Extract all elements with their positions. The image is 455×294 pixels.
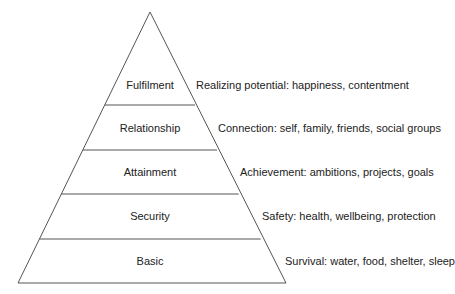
level-label-relationship: Relationship: [120, 122, 181, 134]
level-label-fulfilment: Fulfilment: [126, 79, 174, 91]
level-label-basic: Basic: [137, 255, 164, 267]
level-description-relationship: Connection: self, family, friends, socia…: [218, 122, 441, 134]
level-label-attainment: Attainment: [124, 166, 177, 178]
level-description-attainment: Achievement: ambitions, projects, goals: [240, 166, 434, 178]
pyramid-outline: [18, 12, 286, 283]
level-label-security: Security: [130, 210, 170, 222]
level-description-basic: Survival: water, food, shelter, sleep: [285, 255, 455, 267]
level-description-fulfilment: Realizing potential: happiness, contentm…: [196, 79, 409, 91]
level-description-security: Safety: health, wellbeing, protection: [262, 210, 436, 222]
